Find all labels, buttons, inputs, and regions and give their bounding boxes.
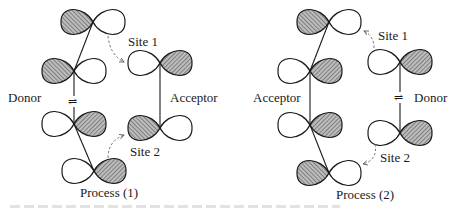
shaded-lobe <box>61 10 93 35</box>
donor-label-process-2: Donor <box>414 91 447 104</box>
nucleus-dot <box>159 62 161 64</box>
nucleus-dot <box>328 172 330 174</box>
nucleus-dot <box>73 123 75 125</box>
site-1-dashed-arrow-icon <box>108 36 124 62</box>
unshaded-lobe <box>62 159 94 184</box>
nucleus-dot <box>309 70 311 72</box>
donor-label-process-1: Donor <box>8 91 41 104</box>
shaded-lobe <box>310 59 342 84</box>
nucleus-dot <box>92 21 94 23</box>
acceptor-label-process-1: Acceptor <box>170 91 218 104</box>
unshaded-lobe <box>278 113 310 138</box>
unshaded-lobe <box>160 116 192 141</box>
site-1-label-process-2: Site 1 <box>378 29 408 42</box>
unshaded-lobe <box>128 51 160 76</box>
unshaded-lobe <box>93 10 125 35</box>
shaded-lobe <box>94 159 126 184</box>
shaded-lobe <box>400 50 432 75</box>
unshaded-lobe <box>368 50 400 75</box>
site-2-label-process-2: Site 2 <box>380 151 410 164</box>
site-2-dashed-arrow-icon <box>363 144 376 164</box>
site-1-dashed-arrow-icon <box>364 31 374 48</box>
shaded-lobe <box>74 112 106 137</box>
bond-lines <box>74 22 400 173</box>
shaded-lobe <box>297 10 329 35</box>
shaded-lobe <box>42 59 74 84</box>
acceptor-label-process-2: Acceptor <box>253 91 301 104</box>
p-orbital-donor-process-1-3 <box>62 159 126 184</box>
nucleus-dot <box>328 21 330 23</box>
unshaded-lobe <box>278 59 310 84</box>
shaded-lobe <box>400 121 432 146</box>
unshaded-lobe <box>368 121 400 146</box>
unshaded-lobe <box>329 10 361 35</box>
nucleus-dot <box>159 127 161 129</box>
unshaded-lobe <box>74 59 106 84</box>
shaded-lobe <box>160 51 192 76</box>
site-1-label-process-1: Site 1 <box>128 35 158 48</box>
nucleus-dot <box>309 124 311 126</box>
p-orbital-donor-process-1-0 <box>61 10 125 35</box>
p-orbitals <box>42 10 432 186</box>
nucleus-dot <box>399 132 401 134</box>
truncated-figure-caption <box>10 205 340 208</box>
orbital-overlap-diagram: Donor Acceptor Site 1 Site 2 ⇌ Process (… <box>0 0 460 210</box>
equilibrium-symbol-process-1: ⇌ <box>68 96 77 107</box>
unshaded-lobe <box>42 112 74 137</box>
shaded-lobe <box>310 113 342 138</box>
equilibrium-symbol-process-2: ⇌ <box>394 92 403 103</box>
p-orbital-acceptor-process-2-3 <box>297 161 361 186</box>
site-2-dashed-arrow-icon <box>108 135 124 158</box>
shaded-lobe <box>128 116 160 141</box>
nucleus-dot <box>93 170 95 172</box>
nucleus-dot <box>73 70 75 72</box>
unshaded-lobe <box>329 161 361 186</box>
nucleus-dot <box>399 61 401 63</box>
caption-process-2: Process (2) <box>336 188 394 201</box>
caption-process-1: Process (1) <box>80 186 138 199</box>
site-2-label-process-1: Site 2 <box>130 145 160 158</box>
shaded-lobe <box>297 161 329 186</box>
p-orbital-acceptor-process-2-0 <box>297 10 361 35</box>
